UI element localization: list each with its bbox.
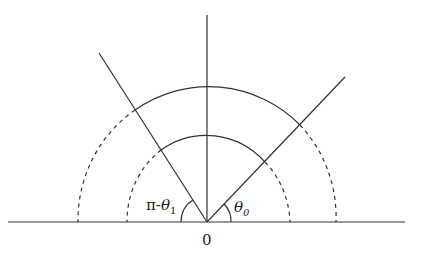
- diagram-canvas: θ0 π-θ1 0: [0, 0, 422, 261]
- angle-arc-left: [181, 200, 193, 222]
- inner-arc-dashed-right: [265, 162, 290, 222]
- angle-right-label: θ0: [234, 198, 250, 218]
- inner-arc-solid: [161, 135, 265, 162]
- outer-arc-solid: [135, 87, 300, 125]
- origin-label: 0: [202, 231, 212, 249]
- outer-arc-dashed-left: [78, 110, 135, 222]
- outer-arc-dashed-right: [300, 125, 336, 222]
- angle-arc-right: [224, 204, 231, 222]
- right-ray: [207, 77, 345, 222]
- angle-left-label: π-θ1: [146, 196, 176, 216]
